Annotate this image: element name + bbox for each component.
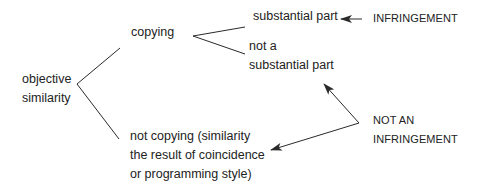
label-infringement: INFRINGEMENT <box>373 9 458 28</box>
branch-copying <box>193 27 245 54</box>
node-objective-similarity-line2: similarity <box>22 89 71 108</box>
arrow-to-not-copying <box>271 123 359 150</box>
label-not-an-infringement: NOT AN INFRINGEMENT <box>373 111 458 149</box>
label-not-an-infringement-line2: INFRINGEMENT <box>373 130 458 149</box>
branch-objective-similarity <box>77 48 120 139</box>
node-not-substantial-part: not a substantial part <box>249 37 334 75</box>
node-not-copying-line1: not copying (similarity <box>130 127 265 146</box>
arrow-to-not-substantial-part <box>324 84 359 123</box>
node-substantial-part: substantial part <box>253 7 338 26</box>
node-not-substantial-part-line1: not a <box>249 37 334 56</box>
label-not-an-infringement-line1: NOT AN <box>373 111 458 130</box>
node-not-copying-line3: or programming style) <box>130 165 265 184</box>
node-copying: copying <box>131 23 174 42</box>
node-objective-similarity-line1: objective <box>22 70 71 89</box>
node-objective-similarity: objective similarity <box>22 70 71 108</box>
node-not-substantial-part-line2: substantial part <box>249 56 334 75</box>
node-not-copying: not copying (similarity the result of co… <box>130 127 265 184</box>
node-not-copying-line2: the result of coincidence <box>130 146 265 165</box>
